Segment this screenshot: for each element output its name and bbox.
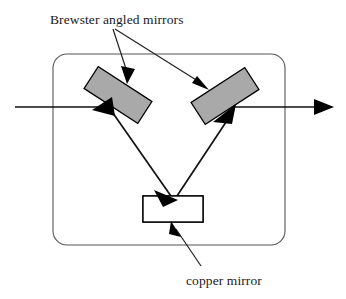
diagram-canvas: Brewster angled mirrors copper mirror bbox=[0, 0, 346, 299]
output-beam-arrowhead bbox=[314, 99, 334, 115]
copper-mirror-label: copper mirror bbox=[186, 273, 262, 288]
brewster-leader-right-arrowhead bbox=[192, 76, 209, 90]
left-brewster-mirror bbox=[84, 67, 152, 124]
copper-leader-line bbox=[176, 229, 201, 266]
optical-diagram: Brewster angled mirrors copper mirror bbox=[0, 0, 346, 299]
brewster-mirrors-label: Brewster angled mirrors bbox=[50, 12, 184, 27]
brewster-leader-left-arrowhead bbox=[121, 66, 135, 84]
copper-leader-arrowhead bbox=[169, 221, 181, 237]
